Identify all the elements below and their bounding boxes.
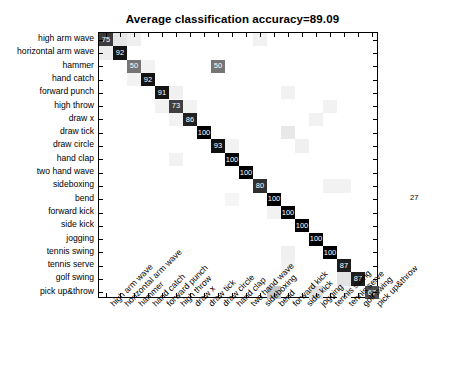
cell-value-text: 92	[144, 76, 152, 84]
y-axis-tick	[99, 53, 103, 54]
x-axis-tick-top	[162, 33, 163, 37]
y-axis-tick	[99, 213, 103, 214]
matrix-cell-value: 100	[239, 166, 253, 179]
matrix-cell-faint	[169, 113, 183, 126]
cell-value-text: 93	[214, 142, 222, 150]
y-axis-tick-right	[373, 159, 377, 160]
x-axis-tick-top	[134, 33, 135, 37]
matrix-cell-faint	[141, 60, 155, 73]
matrix-cell-faint	[281, 246, 295, 259]
y-axis-tick-right	[373, 80, 377, 81]
matrix-cells: 7592505092917386100931001008010010010010…	[99, 33, 377, 297]
y-axis-tick-right	[373, 252, 377, 253]
x-axis-tick-top	[358, 33, 359, 37]
x-axis-tick-top	[218, 33, 219, 37]
x-axis-label: high throw	[179, 302, 185, 308]
matrix-cell-value: 100	[267, 193, 281, 206]
cell-value-text: 100	[282, 209, 295, 217]
matrix-cell-faint	[281, 86, 295, 99]
confusion-matrix-figure: Average classification accuracy=89.09 hi…	[0, 0, 465, 384]
matrix-cell-value: 100	[281, 206, 295, 219]
cell-value-text: 100	[268, 195, 281, 203]
y-axis-tick-right	[373, 93, 377, 94]
x-axis-tick-top	[274, 33, 275, 37]
x-axis-label: horizontal arm wave	[123, 302, 129, 308]
x-axis-label: bend	[277, 302, 283, 308]
y-axis-label: high arm wave	[38, 34, 94, 43]
matrix-plot-area: 7592505092917386100931001008010010010010…	[98, 32, 378, 298]
y-axis-tick-right	[373, 106, 377, 107]
cell-value-text: 92	[116, 49, 124, 57]
x-axis-tick-top	[232, 33, 233, 37]
y-axis-tick	[99, 279, 103, 280]
x-axis-label: draw tick	[207, 302, 213, 308]
cell-value-text: 100	[226, 155, 239, 163]
y-axis-tick	[99, 252, 103, 253]
y-axis-label: golf swing	[56, 273, 94, 282]
y-axis-tick-right	[373, 173, 377, 174]
matrix-cell-value: 100	[225, 153, 239, 166]
x-axis-label: hand catch	[151, 302, 157, 308]
outside-annotation-27: 27	[410, 194, 418, 202]
x-axis-tick-top	[246, 33, 247, 37]
x-axis-tick-top	[344, 33, 345, 37]
y-axis-tick	[99, 159, 103, 160]
y-axis-label: forward kick	[48, 207, 94, 216]
y-axis-tick-right	[373, 226, 377, 227]
cell-value-text: 91	[158, 89, 166, 97]
matrix-cell-value: 50	[127, 60, 141, 73]
y-axis-tick	[99, 106, 103, 107]
x-axis-tick-top	[120, 33, 121, 37]
cell-value-text: 100	[240, 169, 253, 177]
y-axis-label: pick up&throw	[40, 287, 94, 296]
matrix-cell-value: 93	[211, 139, 225, 152]
x-axis-tick-top	[316, 33, 317, 37]
y-axis-tick	[99, 93, 103, 94]
matrix-cell-faint	[225, 139, 239, 152]
y-axis-tick-right	[373, 40, 377, 41]
y-axis-tick-right	[373, 119, 377, 120]
x-axis-label: sideboxing	[263, 302, 269, 308]
cell-value-text: 100	[198, 129, 211, 137]
matrix-cell-faint	[295, 139, 309, 152]
y-axis-label: draw tick	[60, 127, 94, 136]
matrix-cell-value: 100	[309, 233, 323, 246]
matrix-cell-faint	[267, 206, 281, 219]
matrix-cell-faint	[169, 153, 183, 166]
matrix-cell-value: 50	[211, 60, 225, 73]
x-axis-label: forward punch	[165, 302, 171, 308]
x-axis-tick-top	[330, 33, 331, 37]
matrix-cell-value: 87	[337, 259, 351, 272]
matrix-cell-faint	[309, 113, 323, 126]
x-axis-label: golf swing	[361, 302, 367, 308]
y-axis-tick-right	[373, 133, 377, 134]
y-axis-tick-right	[373, 146, 377, 147]
matrix-cell-faint	[281, 126, 295, 139]
cell-value-text: 87	[340, 262, 348, 270]
y-axis-tick	[99, 266, 103, 267]
chart-title: Average classification accuracy=89.09	[0, 13, 465, 25]
x-axis-tick-top	[288, 33, 289, 37]
y-axis-label: high throw	[54, 101, 94, 110]
y-axis-tick	[99, 80, 103, 81]
y-axis-tick	[99, 66, 103, 67]
y-axis-label: two hand wave	[37, 167, 94, 176]
y-axis-label: side kick	[61, 220, 94, 229]
x-axis-label: jogging	[319, 302, 325, 308]
cell-value-text: 86	[186, 115, 194, 123]
x-axis-label: hand clap	[235, 302, 241, 308]
y-axis-tick-right	[373, 213, 377, 214]
x-axis-tick-top	[176, 33, 177, 37]
cell-value-text: 100	[296, 222, 309, 230]
y-axis-tick	[99, 146, 103, 147]
x-axis-labels: high arm wavehorizontal arm wavehammerha…	[98, 300, 398, 384]
y-axis-label: hammer	[62, 61, 94, 70]
y-axis-labels: high arm wavehorizontal arm wavehammerha…	[0, 32, 94, 298]
y-axis-tick	[99, 119, 103, 120]
matrix-cell-faint	[225, 193, 239, 206]
x-axis-tick-top	[106, 33, 107, 37]
x-axis-label: hammer	[137, 302, 143, 308]
y-axis-tick-right	[373, 199, 377, 200]
matrix-cell-faint	[169, 86, 183, 99]
y-axis-label: forward punch	[40, 87, 94, 96]
